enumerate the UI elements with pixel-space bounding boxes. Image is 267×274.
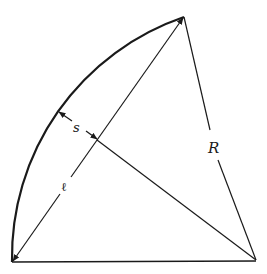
sagitta-label: s — [73, 120, 80, 135]
base-radius — [12, 261, 256, 262]
sagitta-left — [59, 112, 72, 121]
chord-label: ℓ — [61, 180, 67, 194]
radius-line-upper — [184, 17, 210, 130]
chord-lower — [13, 194, 60, 261]
bisector-line — [97, 140, 256, 260]
radius-label: R — [207, 139, 219, 157]
chord-upper — [71, 18, 183, 177]
sector-diagram: s R ℓ — [0, 0, 267, 274]
sagitta-right — [86, 131, 97, 139]
